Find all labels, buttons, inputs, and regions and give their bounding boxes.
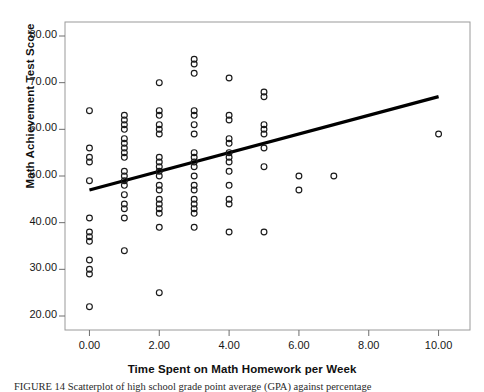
data-point-marker bbox=[191, 173, 197, 179]
data-point-marker bbox=[87, 257, 93, 263]
data-point-marker bbox=[87, 215, 93, 221]
data-points bbox=[87, 56, 442, 309]
data-point-marker bbox=[156, 224, 162, 230]
y-tick-label: 70.00 bbox=[0, 75, 57, 87]
x-tick-label: 10.00 bbox=[409, 339, 469, 351]
x-tick-label: 6.00 bbox=[269, 339, 329, 351]
y-tick-label: 20.00 bbox=[0, 308, 57, 320]
data-point-marker bbox=[191, 70, 197, 76]
figure-caption: FIGURE 14 Scatterplot of high school gra… bbox=[14, 381, 476, 392]
y-tick-label: 40.00 bbox=[0, 215, 57, 227]
data-point-marker bbox=[331, 173, 337, 179]
data-point-marker bbox=[191, 224, 197, 230]
regression-line bbox=[89, 97, 438, 190]
plot-canvas bbox=[0, 0, 484, 392]
data-point-marker bbox=[121, 215, 127, 221]
data-point-marker bbox=[261, 229, 267, 235]
data-point-marker bbox=[87, 178, 93, 184]
x-tick-label: 4.00 bbox=[199, 339, 259, 351]
data-point-marker bbox=[436, 131, 442, 137]
data-point-marker bbox=[87, 304, 93, 310]
y-tick-label: 50.00 bbox=[0, 168, 57, 180]
y-tick-label: 60.00 bbox=[0, 121, 57, 133]
plot-border bbox=[65, 22, 470, 330]
data-point-marker bbox=[87, 145, 93, 151]
tick-marks bbox=[59, 36, 439, 336]
data-point-marker bbox=[121, 192, 127, 198]
data-point-marker bbox=[87, 108, 93, 114]
data-point-marker bbox=[261, 145, 267, 151]
data-point-marker bbox=[261, 164, 267, 170]
data-point-marker bbox=[296, 187, 302, 193]
data-point-marker bbox=[191, 122, 197, 128]
scatter-plot-figure: Math Achievement Test Score Time Spent o… bbox=[0, 0, 484, 392]
x-tick-label: 0.00 bbox=[59, 339, 119, 351]
x-axis-title: Time Spent on Math Homework per Week bbox=[0, 363, 484, 375]
data-point-marker bbox=[156, 290, 162, 296]
x-tick-label: 2.00 bbox=[129, 339, 189, 351]
data-point-marker bbox=[226, 182, 232, 188]
data-point-marker bbox=[191, 131, 197, 137]
x-tick-label: 8.00 bbox=[339, 339, 399, 351]
plot-frame bbox=[65, 22, 470, 330]
y-tick-label: 30.00 bbox=[0, 261, 57, 273]
data-point-marker bbox=[226, 75, 232, 81]
data-point-marker bbox=[296, 173, 302, 179]
data-point-marker bbox=[226, 229, 232, 235]
regression-fit-line bbox=[89, 97, 438, 190]
data-point-marker bbox=[156, 80, 162, 86]
y-tick-label: 80.00 bbox=[0, 28, 57, 40]
data-point-marker bbox=[226, 168, 232, 174]
data-point-marker bbox=[121, 248, 127, 254]
